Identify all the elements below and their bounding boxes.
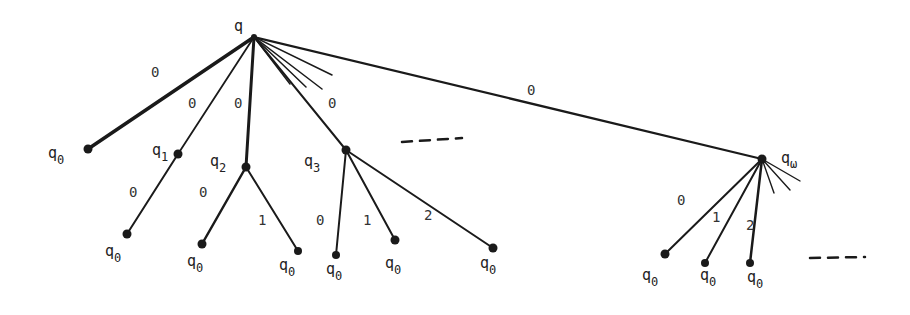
label-q3: q3 [304, 152, 320, 175]
node-q2 [242, 163, 251, 172]
edge-label: 0 [151, 64, 159, 80]
tree-diagram: q q0 q1 q2 q3 qω q0 q0 q0 q0 q0 q0 q0 q0… [0, 0, 910, 315]
node-q3 [342, 146, 351, 155]
leaf-label: q0 [326, 260, 342, 283]
leaf-label: q0 [700, 266, 716, 289]
leaf [489, 244, 498, 253]
leaf-label: q0 [642, 266, 658, 289]
leaf [198, 240, 207, 249]
leaf [123, 230, 132, 239]
fan-stub [254, 37, 332, 75]
leaf [294, 247, 302, 255]
leaf [661, 250, 670, 259]
edge-q3-leaf0 [336, 150, 346, 255]
edge-label: 2 [746, 217, 754, 233]
leaf-label: q0 [279, 256, 295, 279]
edge-label: 0 [328, 95, 336, 111]
leaf-label: q0 [105, 242, 121, 265]
leaf [391, 236, 400, 245]
leaf-label: q0 [187, 252, 203, 275]
ellipsis-dashes [402, 138, 462, 142]
node-q0 [84, 145, 93, 154]
edge-label: 2 [424, 207, 432, 223]
label-q: q [234, 17, 243, 35]
edge-label: 0 [234, 95, 242, 111]
edge-q2-leaf1 [246, 167, 298, 251]
leaf-label: q0 [747, 268, 763, 291]
node-q1 [174, 150, 183, 159]
leaf-label: q0 [385, 254, 401, 277]
edge-q-q0 [88, 37, 254, 149]
node-q [251, 34, 257, 40]
edge-label: 0 [188, 95, 196, 111]
edge-label: 0 [129, 184, 137, 200]
leaf [746, 259, 754, 267]
edge-label: 0 [677, 192, 685, 208]
edge-q2-leaf0 [202, 167, 246, 244]
tree-svg: q q0 q1 q2 q3 qω q0 q0 q0 q0 q0 q0 q0 q0… [0, 0, 910, 315]
edge-label: 1 [363, 212, 371, 228]
label-q1: q1 [152, 141, 168, 164]
edge-q3-leaf2 [346, 150, 493, 248]
node-qw [758, 155, 767, 164]
fan-stub [254, 37, 306, 87]
edge-label: 0 [199, 184, 207, 200]
edge-label: 1 [258, 212, 266, 228]
leaf [332, 251, 340, 259]
label-q0: q0 [48, 144, 64, 167]
edge-label: 0 [527, 82, 535, 98]
edge-q-q2 [246, 37, 254, 167]
leaf-label: q0 [480, 254, 496, 277]
edge-qw-leaf2 [750, 159, 762, 263]
edge-label: 0 [316, 212, 324, 228]
edge-label: 1 [712, 209, 720, 225]
label-q2: q2 [210, 152, 226, 175]
ellipsis-dashes [810, 257, 865, 258]
label-qw: qω [781, 149, 797, 171]
